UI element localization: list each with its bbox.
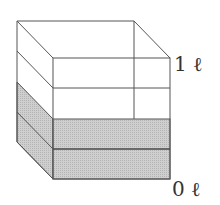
label-1-liter: 1 ℓ [174,52,203,76]
cube-diagram: 1 ℓ 0 ℓ [0,0,220,205]
label-0-liter: 0 ℓ [172,177,201,201]
